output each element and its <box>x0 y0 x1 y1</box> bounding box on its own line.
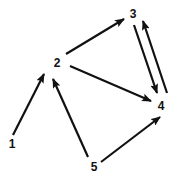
node-4-label: 4 <box>158 99 165 113</box>
node-5-label: 5 <box>91 160 98 174</box>
edge-3-to-4-arrow <box>134 25 157 93</box>
edges <box>13 19 167 162</box>
node-2-label: 2 <box>54 56 61 70</box>
edge-1-to-2-arrow <box>13 74 44 135</box>
nodes: 12345 <box>9 7 165 174</box>
edge-5-to-4-arrow <box>101 117 160 162</box>
edge-2-to-4-arrow <box>70 66 151 101</box>
node-3-label: 3 <box>130 7 137 21</box>
node-1-label: 1 <box>9 137 16 151</box>
edge-2-to-3-arrow <box>66 19 124 54</box>
directed-graph: 12345 <box>0 0 177 182</box>
edge-4-to-3-arrow <box>143 21 167 93</box>
edge-5-to-2-arrow <box>53 79 88 157</box>
